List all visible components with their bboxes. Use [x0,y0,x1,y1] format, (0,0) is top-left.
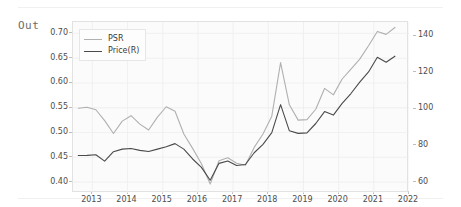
x-tick-label: 2021 [353,195,393,204]
y-tick-mark-right [413,71,416,72]
x-tick-label: 2017 [212,195,252,204]
legend-item-label: PSR [108,34,123,44]
y-axis-left: 0.400.450.500.550.600.650.70 [24,21,68,192]
y-tick-mark-right [413,144,416,145]
x-tick-label: 2018 [247,195,287,204]
x-tick-label: 2020 [318,195,358,204]
x-tick-label: 2015 [142,195,182,204]
series-line-price-r [78,56,395,180]
notebook-output-cell: Out 0.400.450.500.550.600.650.70 6080100… [0,0,461,207]
y-axis-right: 6080100120140 [412,21,456,192]
y-tick-mark-right [413,108,416,109]
x-tick-label: 2019 [282,195,322,204]
x-axis: 2013201420152016201720182019202020212022 [72,193,408,207]
y-tick-label-left: 0.70 [28,28,68,37]
y-tick-mark-right [413,181,416,182]
y-tick-label-right: 120 [418,67,433,76]
legend-item-label: Price(R) [108,46,139,56]
cell-divider-top [18,7,443,8]
x-tick-label: 2016 [177,195,217,204]
legend-item: PSR [84,33,139,45]
y-tick-label-left: 0.40 [28,177,68,186]
x-tick-label: 2013 [71,195,111,204]
y-tick-label-left: 0.50 [28,127,68,136]
y-tick-label-right: 100 [418,103,433,112]
x-tick-label: 2022 [388,195,428,204]
y-tick-mark-right [413,35,416,36]
y-tick-label-right: 60 [418,177,428,186]
y-tick-label-left: 0.65 [28,53,68,62]
y-tick-label-right: 140 [418,30,433,39]
legend-item: Price(R) [84,45,139,57]
x-tick-label: 2014 [107,195,147,204]
legend-line-swatch-icon [84,51,102,52]
plot-area: PSRPrice(R) [72,21,408,192]
y-tick-label-left: 0.45 [28,152,68,161]
y-tick-label-left: 0.55 [28,102,68,111]
chart-figure: 0.400.450.500.550.600.650.70 60801001201… [0,10,461,198]
y-tick-label-left: 0.60 [28,77,68,86]
legend-line-swatch-icon [84,39,102,40]
chart-legend: PSRPrice(R) [79,29,146,61]
y-tick-label-right: 80 [418,140,428,149]
